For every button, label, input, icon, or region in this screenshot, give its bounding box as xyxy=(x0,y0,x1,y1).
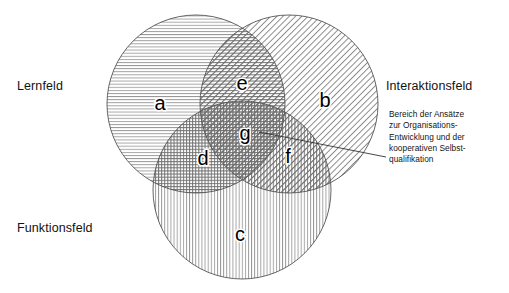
annotation-text-block: Bereich der Ansätze zur Organisations- E… xyxy=(389,109,509,165)
field-label-interaktionsfeld: Interaktionsfeld xyxy=(386,80,472,93)
annotation-line-3: Entwicklung und der xyxy=(389,132,509,143)
region-label-d: d xyxy=(197,147,208,169)
region-label-b: b xyxy=(319,89,330,111)
field-label-funktionsfeld: Funktionsfeld xyxy=(17,222,93,235)
region-label-f: f xyxy=(285,145,291,167)
region-label-a: a xyxy=(154,92,166,114)
region-label-e: e xyxy=(236,72,247,94)
venn-diagram-canvas: a b c d e f g Lernfeld Interaktionsfeld … xyxy=(0,0,509,293)
annotation-line-4: kooperativen Selbst- xyxy=(389,143,509,154)
field-label-lernfeld: Lernfeld xyxy=(17,80,63,93)
annotation-line-2: zur Organisations- xyxy=(389,120,509,131)
annotation-line-1: Bereich der Ansätze xyxy=(389,109,509,120)
region-label-c: c xyxy=(235,223,245,245)
annotation-line-5: qualifikation xyxy=(389,154,509,165)
region-label-g: g xyxy=(239,122,250,144)
